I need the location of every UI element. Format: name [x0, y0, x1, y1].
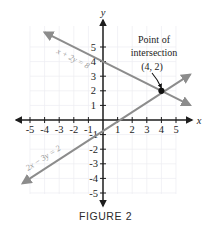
y-tick-label: -5 — [89, 188, 98, 199]
x-axis-label: x — [196, 115, 202, 126]
y-tick-label: -4 — [89, 173, 98, 184]
x-tick-labels: -5 -4 -3 -2 -1 1 2 3 4 5 — [26, 124, 179, 135]
y-tick-label: 3 — [91, 71, 96, 82]
x-tick-label: 4 — [159, 124, 165, 135]
x-tick-label: -2 — [69, 124, 78, 135]
annotation-line-1: Point of — [138, 34, 171, 45]
x-tick-label: 3 — [144, 124, 149, 135]
y-tick-label: -2 — [89, 144, 98, 155]
intersection-point-marker — [158, 88, 164, 94]
annotation-line-2: intersection — [131, 47, 178, 58]
coordinate-plane-chart: x y -5 -4 - — [0, 0, 211, 210]
equation-label-line1: x + 2y = 8 — [54, 46, 91, 71]
y-tick-label: 2 — [91, 85, 96, 96]
annotation-coordinates: (4, 2) — [141, 61, 163, 73]
y-tick-label: 1 — [91, 100, 96, 111]
x-tick-label: -4 — [40, 124, 49, 135]
x-tick-label: -5 — [26, 124, 35, 135]
y-axis-label: y — [100, 7, 106, 18]
x-tick-label: 2 — [130, 124, 135, 135]
intersection-annotation: Point of intersection (4, 2) — [131, 34, 178, 94]
figure-container: x y -5 -4 - — [0, 0, 211, 232]
figure-caption: FIGURE 2 — [0, 210, 211, 222]
x-tick-label: 1 — [115, 124, 120, 135]
x-tick-label: -3 — [55, 124, 64, 135]
y-tick-label: 5 — [91, 42, 96, 53]
x-tick-label: 5 — [173, 124, 178, 135]
y-tick-label: -3 — [89, 158, 98, 169]
